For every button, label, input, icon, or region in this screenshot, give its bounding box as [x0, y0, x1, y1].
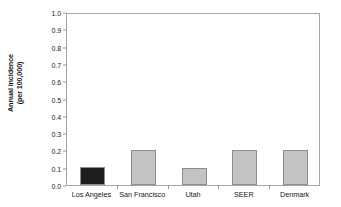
y-axis-tick-labels: 0.00.10.20.30.40.50.60.70.80.91.0 — [40, 13, 61, 186]
x-axis-tick-mark — [117, 186, 118, 189]
y-axis-tick-label: 0.1 — [40, 165, 61, 172]
bar-denmark — [283, 150, 308, 185]
bar-chart: Annual incidence (per 100,000) 0.00.10.2… — [0, 0, 341, 207]
bar-los-angeles — [80, 167, 105, 185]
y-axis-title-line-2: (per 100,000) — [16, 62, 25, 105]
bar-san-francisco — [131, 150, 156, 185]
bars-layer — [67, 14, 319, 185]
x-axis-tick-label: Denmark — [280, 190, 309, 199]
x-axis-tick-label: San Francisco — [119, 190, 165, 199]
x-axis-tick-labels: Los AngelesSan FranciscoUtahSEERDenmark — [66, 190, 320, 204]
y-axis-tick-label: 0.9 — [40, 27, 61, 34]
y-axis-tick-label: 0.7 — [40, 61, 61, 68]
bar-utah — [182, 168, 207, 185]
x-axis-tick-label: Utah — [185, 190, 200, 199]
y-axis-tick-label: 0.0 — [40, 183, 61, 190]
bar-seer — [232, 150, 257, 185]
x-axis-tick-mark — [168, 186, 169, 189]
x-axis-tick-label: Los Angeles — [72, 190, 111, 199]
x-axis-tick-label: SEER — [234, 190, 254, 199]
y-axis-tick-label: 0.3 — [40, 131, 61, 138]
y-axis-title: Annual incidence (per 100,000) — [3, 33, 29, 133]
plot-area — [66, 13, 320, 186]
y-axis-tick-label: 0.4 — [40, 113, 61, 120]
y-axis-tick-label: 0.5 — [40, 96, 61, 103]
y-axis-tick-label: 0.2 — [40, 148, 61, 155]
y-axis-tick-label: 0.8 — [40, 44, 61, 51]
y-axis-tick-label: 0.6 — [40, 79, 61, 86]
y-axis-tick-label: 1.0 — [40, 10, 61, 17]
x-axis-tick-mark — [269, 186, 270, 189]
x-axis-tick-mark — [218, 186, 219, 189]
